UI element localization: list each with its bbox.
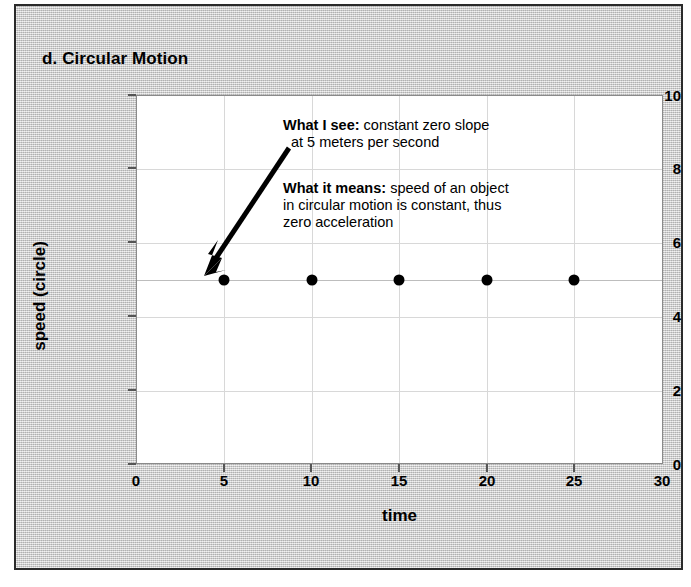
data-point [482,275,493,286]
annotation-what-i-see-line1: What I see: constant zero slope [283,117,489,134]
x-tick-label-0: 0 [116,472,156,489]
annotation-what-it-means-text: speed of an object [386,180,509,196]
y-tick-mark-2 [128,389,136,391]
y-tick-mark-10 [128,94,136,96]
annotation-arrow-icon [196,136,301,286]
chart-title: d. Circular Motion [42,49,188,69]
x-tick-label-20: 20 [467,472,507,489]
figure-canvas: d. Circular Motion speed (circle) time 0… [0,0,691,587]
data-point [394,275,405,286]
annotation-what-i-see-text: constant zero slope [360,117,490,133]
x-tick-label-30: 30 [642,472,682,489]
y-tick-mark-8 [128,167,136,169]
x-axis-label: time [136,506,663,526]
y-tick-mark-6 [128,241,136,243]
chart-panel: d. Circular Motion speed (circle) time 0… [14,4,683,570]
x-tick-label-10: 10 [291,472,331,489]
x-tick-mark-5 [223,464,225,472]
x-tick-label-25: 25 [554,472,594,489]
annotation-what-it-means-line1: What it means: speed of an object [283,180,509,197]
annotation-what-it-means-line2: in circular motion is constant, thus [283,197,509,214]
y-axis-label: speed (circle) [30,241,50,351]
annotation-what-it-means-line3: zero acceleration [283,214,509,231]
annotation-what-it-means: What it means: speed of an object in cir… [283,180,509,231]
annotation-what-i-see-lead: What I see: [283,117,360,133]
annotation-what-i-see: What I see: constant zero slope at 5 met… [283,117,489,151]
annotation-what-i-see-line2: at 5 meters per second [283,134,489,151]
x-tick-mark-25 [573,464,575,472]
y-tick-mark-4 [128,315,136,317]
data-point [307,275,318,286]
x-tick-mark-15 [398,464,400,472]
y-tick-mark-0 [128,463,136,465]
x-tick-mark-20 [486,464,488,472]
x-tick-mark-10 [310,464,312,472]
x-tick-label-15: 15 [379,472,419,489]
data-point [569,275,580,286]
x-tick-label-5: 5 [204,472,244,489]
